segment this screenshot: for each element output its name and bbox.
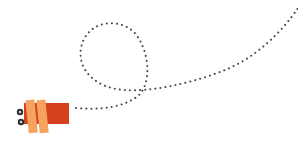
scene-canvas	[0, 0, 298, 144]
dotted-flight-path	[76, 8, 298, 109]
bug-character	[17, 100, 69, 134]
